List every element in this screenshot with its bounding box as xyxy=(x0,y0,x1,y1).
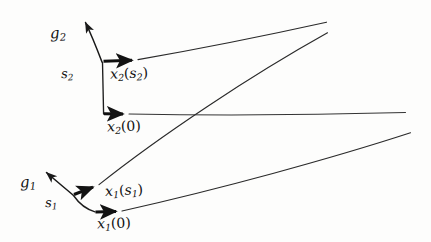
label-s1: s1 xyxy=(45,196,58,212)
lower-frame-curved-leg xyxy=(74,196,96,212)
label-s2: s2 xyxy=(61,67,74,83)
label-x2-0: x2(0) xyxy=(107,118,141,135)
label-x1-s1: x1(s1) xyxy=(105,182,144,200)
figure-canvas: g2 s2 x2(s2) x2(0) g1 s1 x1(s1) x1(0) xyxy=(0,0,431,242)
vector-x2-s2-arrow xyxy=(104,60,133,61)
vector-x1-0-arrow xyxy=(96,211,117,212)
ray-from-x1-s1 xyxy=(99,33,328,185)
vector-x1-s1-arrow xyxy=(74,187,93,194)
gradient-vector-g2-arrow xyxy=(86,23,103,63)
ray-from-x2-0 xyxy=(129,113,406,115)
ray-from-x2-s2 xyxy=(138,22,327,59)
label-g2: g2 xyxy=(49,25,66,43)
label-x2-s2: x2(s2) xyxy=(110,65,149,82)
upper-frame-vertical-leg xyxy=(103,63,104,115)
ray-from-x1-0 xyxy=(122,133,411,211)
gradient-vector-g1-arrow xyxy=(47,173,74,196)
label-g1: g1 xyxy=(19,174,36,192)
label-x1-0: x1(0) xyxy=(97,215,131,232)
